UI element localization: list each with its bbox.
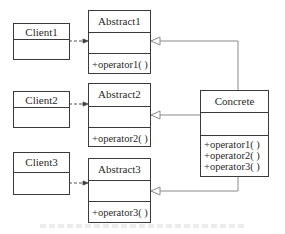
hollow-triangle-icon xyxy=(151,37,160,45)
class-attributes xyxy=(14,39,69,59)
class-name: Abstract1 xyxy=(89,11,150,32)
class-name: Client3 xyxy=(14,153,69,172)
class-attributes xyxy=(89,32,150,53)
class-concrete: Concrete +operator1( ) +operator2( ) +op… xyxy=(200,90,269,177)
faded-caption xyxy=(40,224,245,228)
class-name: Abstract3 xyxy=(89,159,150,180)
hollow-triangle-icon xyxy=(151,187,160,195)
class-attributes xyxy=(201,112,268,135)
class-name: Client2 xyxy=(14,92,69,107)
class-operation: +operator2( ) xyxy=(204,150,268,161)
class-attributes xyxy=(14,172,69,194)
class-operation: +operator1( ) xyxy=(204,139,268,150)
hollow-triangle-icon xyxy=(151,111,160,119)
class-name: Concrete xyxy=(201,91,268,112)
class-client2: Client2 xyxy=(13,91,70,128)
class-attributes xyxy=(14,107,69,127)
class-operation: +operator1( ) xyxy=(89,53,150,73)
class-operation: +operator3( ) xyxy=(204,161,268,172)
class-client1: Client1 xyxy=(13,23,70,60)
class-name: Client1 xyxy=(14,24,69,39)
class-attributes xyxy=(89,180,150,201)
class-operation: +operator3( ) xyxy=(89,201,150,222)
class-abstract1: Abstract1 +operator1( ) xyxy=(88,10,151,74)
class-abstract3: Abstract3 +operator3( ) xyxy=(88,158,151,223)
class-client3: Client3 xyxy=(13,152,70,195)
class-operation: +operator2( ) xyxy=(89,127,150,146)
class-name: Abstract2 xyxy=(89,84,150,106)
class-attributes xyxy=(89,106,150,127)
class-operations: +operator1( ) +operator2( ) +operator3( … xyxy=(201,135,268,176)
generalization-concrete-abstract1 xyxy=(159,41,238,90)
generalization-concrete-abstract3 xyxy=(159,176,238,191)
class-abstract2: Abstract2 +operator2( ) xyxy=(88,83,151,147)
